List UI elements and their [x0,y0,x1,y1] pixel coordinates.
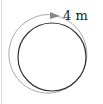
inner-circle [18,23,86,91]
arrow-head-icon [50,12,60,19]
perimeter-label: 4 m [63,9,88,22]
